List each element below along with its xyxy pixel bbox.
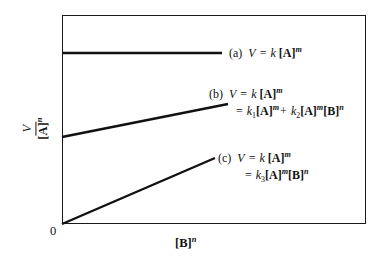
x-species: B — [179, 236, 187, 250]
annotation-a-exponent: m — [295, 45, 301, 54]
annotation-b-line2-species-a1: A — [260, 104, 269, 118]
y-axis-numerator: V — [21, 122, 36, 136]
annotation-c-equation-line1: V = k [A]m — [237, 151, 290, 165]
kinetics-plot-figure: V [A]n 0 [B]n (a) V = k [A]m (b) V = k [… — [0, 0, 381, 265]
annotation-b-equation-line2: = k1[A]m+ k2[A]m[B]n — [209, 103, 344, 120]
origin-label: 0 — [50, 224, 56, 239]
annotation-a-v: V — [248, 46, 255, 60]
annotation-b-tag: (b) — [209, 87, 223, 101]
annotation-a-k: k — [270, 46, 275, 60]
curve-c — [62, 158, 215, 224]
y-denominator-exponent: n — [34, 118, 44, 123]
annotation-a: (a) V = k [A]m — [229, 45, 302, 62]
annotation-c-exponent: m — [284, 150, 290, 159]
annotation-a-tag: (a) — [229, 46, 242, 60]
annotation-b-plus: + — [279, 104, 288, 118]
annotation-b-k: k — [251, 87, 256, 101]
annotation-b-v: V — [229, 87, 236, 101]
annotation-b-equals: = — [239, 87, 248, 101]
x-axis-title: [B]n — [175, 236, 196, 251]
curve-b — [62, 104, 228, 137]
y-denominator-bracket-close: ] — [36, 123, 50, 127]
annotation-b-equation-line1: V = k [A]m — [229, 87, 282, 101]
y-denominator-species: A — [36, 127, 50, 136]
annotation-a-equals: = — [259, 46, 268, 60]
annotation-c-line2-species-b: B — [292, 168, 300, 182]
y-axis-fraction: V [A]n — [21, 115, 50, 143]
annotation-b: (b) V = k [A]m = k1[A]m+ k2[A]m[B]n — [209, 86, 344, 121]
annotation-c-line2-exponent-n: n — [304, 167, 309, 176]
x-exponent: n — [192, 234, 197, 244]
annotation-c: (c) V = k [A]m = k3[A]m[B]n — [218, 150, 309, 185]
annotation-c-equals: = — [248, 151, 257, 165]
annotation-b-species: A — [263, 87, 272, 101]
annotation-c-line2-equals: = — [244, 168, 253, 182]
annotation-b-line2-species-b: B — [327, 104, 335, 118]
annotation-a-equation: V = k [A]m — [248, 46, 301, 60]
y-axis-title: V [A]n — [12, 96, 60, 162]
annotation-b-line2-species-a2: A — [304, 104, 313, 118]
annotation-c-tag: (c) — [218, 151, 231, 165]
annotation-c-equation-line2: = k3[A]m[B]n — [218, 167, 309, 184]
annotation-b-line2-equals: = — [235, 104, 244, 118]
annotation-c-v: V — [237, 151, 244, 165]
y-axis-denominator: [A]n — [36, 115, 50, 143]
annotation-b-exponent: m — [276, 86, 282, 95]
annotation-c-k: k — [259, 151, 264, 165]
annotation-b-line2-exponent-n: n — [339, 103, 344, 112]
annotation-c-line2-species-a: A — [269, 168, 278, 182]
y-denominator-bracket-open: [ — [36, 136, 50, 140]
